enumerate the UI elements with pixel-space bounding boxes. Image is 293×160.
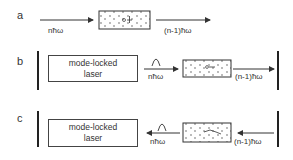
- output-photon-label-b: (n-1)ħω: [235, 72, 263, 81]
- input-photon-label-a: nħω: [48, 26, 63, 35]
- mode-locked-laser-c: mode-locked laser: [48, 119, 138, 147]
- pulse-icon-b: [152, 59, 160, 66]
- laser-label-line2: laser: [49, 133, 137, 144]
- output-photon-label-a: (n-1)ħω: [164, 26, 192, 35]
- mirror-right-c: [277, 111, 279, 147]
- pulse-icon-c: [158, 124, 166, 131]
- mode-locked-laser-b: mode-locked laser: [48, 55, 138, 82]
- output-photon-label-c: (n-1)ħω: [234, 137, 262, 146]
- laser-label-line2: laser: [49, 69, 137, 80]
- mirror-right-b: [277, 51, 279, 90]
- mirror-left-b: [37, 51, 39, 90]
- input-photon-label-c: nħω: [150, 137, 165, 146]
- crystal-c: [183, 123, 231, 142]
- mirror-left-c: [37, 111, 39, 147]
- laser-label-line1: mode-locked: [49, 58, 137, 69]
- panel-label-b: b: [17, 55, 23, 67]
- input-photon-label-b: nħω: [148, 72, 163, 81]
- panel-label-a: a: [17, 9, 23, 21]
- laser-label-line1: mode-locked: [49, 122, 137, 133]
- crystal-a: [99, 11, 150, 29]
- panel-label-c: c: [17, 112, 23, 124]
